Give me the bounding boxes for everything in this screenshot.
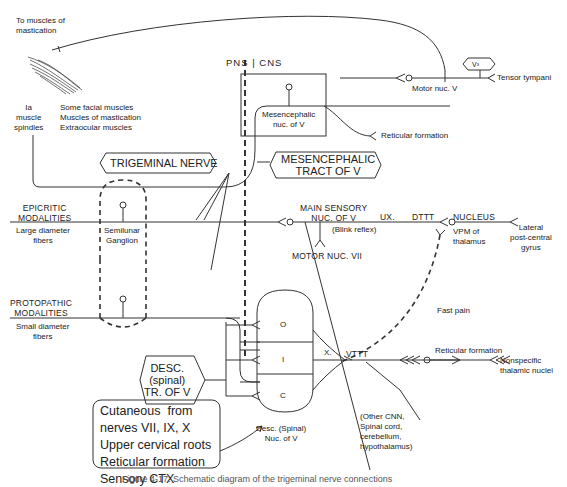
caudalis-label: C [280,391,286,401]
vttt-label: VTTT [346,349,368,359]
nucleus-label: NUCLEUS [453,212,495,222]
input-item: nerves VII, IX, X [100,420,211,437]
input-item: Upper cervical roots [100,437,211,454]
trigeminal-nerve-label: TRIGEMINAL NERVE [110,157,218,169]
v3-label: V³ [472,60,479,70]
vpm-label: VPM of thalamus [453,227,485,247]
main-sensory-label: MAIN SENSORY NUC. OF V [300,203,367,223]
tensor-tympani-label: Tensor tympani [497,73,551,83]
muscle-item: Muscles of mastication [60,113,141,123]
other-cnn-label: (Other CNN, Spinal cord, cerebellum, hyp… [360,412,412,452]
mesencephalic-nuc-label: Mesencephalic nuc. of V [262,110,315,130]
interpolaris-label: I [282,355,284,365]
input-item: Cutaneous from [100,403,211,420]
semilunar-label: Semilunar Ganglion [104,226,140,246]
reticular-formation-top-label: Reticular formation [381,131,448,141]
lateral-gyrus-label: Lateral post-central gyrus [510,223,552,253]
pns-cns-label: PNS | CNS [226,58,282,68]
x-label: X. [324,348,332,358]
nonspecific-label: Nonspecific thalamic nuclei [500,356,553,376]
ia-spindles-label: Ia muscle spindles [14,103,43,133]
epicritic-label: EPICRITIC MODALITIES [18,203,71,223]
dttt-label: DTTT [412,212,435,222]
muscle-item: Extraocular muscles [60,123,141,133]
desc-tract-label: DESC. (spinal) TR. OF V [144,362,190,398]
v3-hex [463,58,495,70]
motor-nuc-v-label: Motor nuc. V [412,84,457,94]
to-muscles-label: To muscles of mastication [16,16,65,36]
muscle-icon [28,57,82,94]
mesencephalic-tract-label: MESENCEPHALIC TRACT OF V [281,153,375,177]
figure-caption: Figure 4-17. Schematic diagram of the tr… [122,474,392,484]
protopathic-label: PROTOPATHIC MODALITIES [10,298,72,318]
ux-label: UX. [380,212,395,222]
motor-nuc-vii-label: MOTOR NUC. VII [292,251,362,261]
muscle-item: Some facial muscles [60,103,141,113]
input-item: Reticular formation [100,454,211,471]
muscles-list: Some facial muscles Muscles of masticati… [60,103,141,133]
blink-reflex-label: (Blink reflex) [332,225,376,235]
reticular-formation-right-label: Reticular formation [435,346,502,356]
large-fibers-label: Large diameter fibers [16,226,70,246]
desc-nuc-label: Desc. (Spinal) Nuc. of V [256,424,306,444]
small-fibers-label: Small diameter fibers [16,322,69,342]
fast-pain-label: Fast pain [437,306,470,316]
oral-label: O [280,320,286,330]
